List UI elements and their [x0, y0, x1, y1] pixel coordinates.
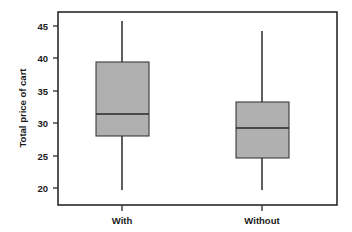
- boxplot-figure: 45 40 35 30 25 20 Total price of cart Wi…: [0, 0, 352, 232]
- x-category-label-without: Without: [244, 215, 280, 226]
- y-tick-label-25: 25: [37, 151, 48, 162]
- chart-background: [0, 0, 352, 232]
- y-tick-label-35: 35: [37, 86, 48, 97]
- chart-canvas: 45 40 35 30 25 20 Total price of cart Wi…: [0, 0, 352, 232]
- y-axis-title: Total price of cart: [17, 68, 28, 148]
- y-tick-label-45: 45: [37, 21, 48, 32]
- y-tick-label-20: 20: [37, 183, 48, 194]
- box-with: [96, 62, 149, 136]
- y-tick-label-30: 30: [37, 118, 48, 129]
- x-category-label-with: With: [112, 215, 133, 226]
- y-tick-label-40: 40: [37, 53, 48, 64]
- box-without: [236, 102, 289, 158]
